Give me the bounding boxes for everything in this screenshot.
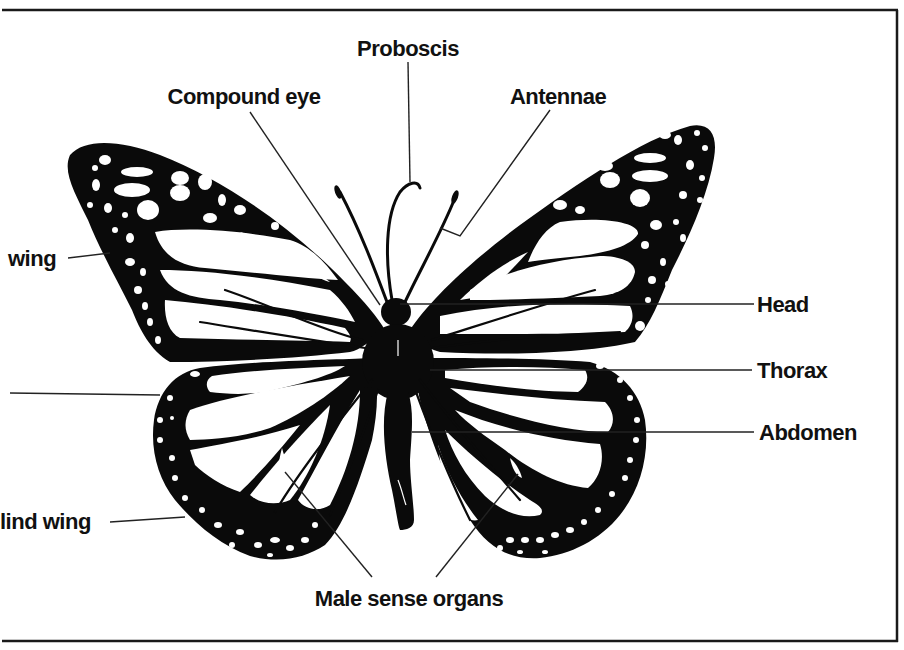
abdomen-shape [384, 392, 414, 530]
fore-wing-leader [68, 253, 110, 258]
hind-wing-leader [110, 517, 185, 522]
right-fore-wing [410, 125, 715, 353]
label-hind-wing: lind wing [0, 509, 91, 534]
label-fore-wing: wing [7, 246, 56, 271]
proboscis-leader [408, 62, 410, 182]
butterfly-diagram: Proboscis Compound eye Antennae wing lin… [0, 0, 904, 650]
label-male-sense-organs: Male sense organs [315, 586, 504, 611]
label-antennae: Antennae [510, 84, 607, 109]
label-compound-eye: Compound eye [168, 84, 321, 109]
right-hind-wing [418, 358, 646, 558]
left-fore-wing [68, 143, 385, 362]
left-hind-wing [153, 358, 377, 560]
label-proboscis: Proboscis [357, 36, 459, 61]
label-thorax: Thorax [757, 358, 829, 383]
head-shape [381, 298, 411, 326]
thorax-shape [362, 324, 434, 400]
label-abdomen: Abdomen [759, 420, 857, 445]
hind-wing-upper-leader [10, 393, 160, 395]
label-head: Head [757, 292, 809, 317]
